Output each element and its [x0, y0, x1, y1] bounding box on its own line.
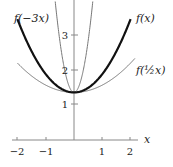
x-tick-label: 2	[127, 146, 133, 157]
y-tick-label: 3	[62, 30, 68, 41]
label-f-half-x: f(½x)	[135, 64, 166, 77]
x-axis-label: x	[144, 133, 151, 146]
label-f-neg3x: f(−3x)	[13, 12, 49, 25]
x-tick-label: 1	[99, 146, 105, 157]
curve-f-half-x	[17, 58, 134, 92]
x-tick-label: −1	[39, 146, 54, 157]
chart: −2 −1 1 2 3 2 1 f(−3x) f(x) f(½x) x	[0, 0, 173, 167]
y-tick-label: 1	[62, 99, 68, 110]
y-tick-label: 2	[62, 65, 68, 76]
x-tick-label: −2	[10, 146, 25, 157]
label-f-x: f(x)	[135, 12, 155, 25]
